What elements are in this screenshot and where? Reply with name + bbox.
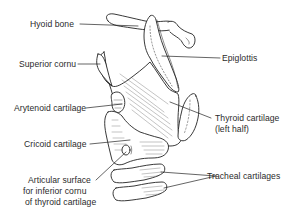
label-cricoid-cartilage: Cricoid cartilage [24, 139, 86, 149]
label-hyoid-bone: Hyoid bone [30, 19, 74, 29]
tracheal-cartilage-2-shape [113, 182, 167, 201]
label-thyroid-cartilage: Thyroid cartilage [215, 113, 279, 123]
label-articular-surface-2: for inferior cornu [23, 186, 86, 196]
label-superior-cornu: Superior cornu [19, 59, 76, 69]
arytenoid-cartilage-shape [111, 92, 125, 113]
tracheal-cartilage-1-shape [111, 164, 165, 183]
label-articular-surface-1: Articular surface [28, 175, 91, 185]
label-thyroid-cartilage-sub: (left half) [215, 124, 249, 134]
label-articular-surface-3: of thyroid cartilage [25, 197, 96, 207]
label-arytenoid-cartilage: Arytenoid cartilage [14, 103, 86, 113]
label-tracheal-cartilages: Tracheal cartilages [207, 171, 280, 181]
label-epiglottis: Epiglottis [222, 53, 257, 63]
